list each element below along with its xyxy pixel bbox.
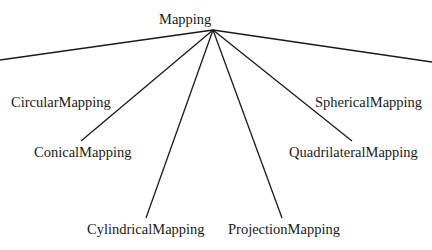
- tree-edges: [0, 0, 432, 250]
- node-spherical-mapping: SphericalMapping: [315, 94, 422, 110]
- node-conical-mapping: ConicalMapping: [34, 144, 131, 160]
- node-cylindrical-mapping: CylindricalMapping: [87, 221, 205, 237]
- node-mapping: Mapping: [159, 11, 211, 27]
- node-quadrilateral-mapping: QuadrilateralMapping: [289, 144, 418, 160]
- node-projection-mapping: ProjectionMapping: [228, 221, 340, 237]
- edge-spherical: [213, 30, 432, 62]
- node-circular-mapping: CircularMapping: [11, 94, 111, 110]
- edge-circular: [0, 30, 213, 60]
